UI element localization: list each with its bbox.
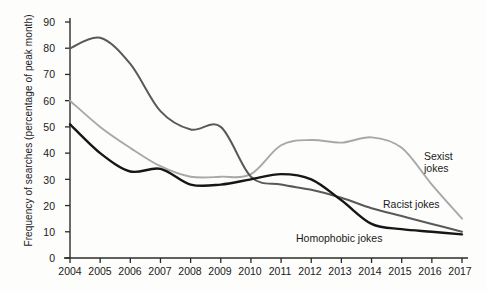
series-line-homophobic-jokes [70, 124, 462, 234]
plot-area [0, 0, 486, 291]
series-line-racist-jokes [70, 37, 462, 231]
series-line-sexist-jokes [70, 101, 462, 219]
line-chart: Frequency of searches (percentage of pea… [0, 0, 486, 291]
